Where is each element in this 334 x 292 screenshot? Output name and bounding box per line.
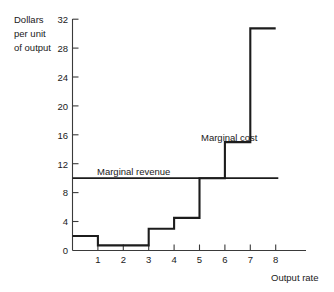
y-axis-label-line2: per unit: [14, 28, 46, 39]
x-axis-label: Output rate: [271, 272, 319, 283]
y-tick-label-20: 20: [57, 101, 68, 112]
chart-container: 32 28 24 20 16 12 8 4 0 1 2 3 4 5 6 7 8 …: [0, 0, 334, 292]
y-tick-label-0: 0: [63, 245, 68, 256]
x-tick-label-6: 6: [222, 254, 227, 265]
y-tick-label-24: 24: [57, 72, 68, 83]
x-tick-label-3: 3: [146, 254, 151, 265]
y-tick-label-4: 4: [63, 216, 68, 227]
y-tick-label-8: 8: [63, 187, 68, 198]
x-tick-label-1: 1: [95, 254, 100, 265]
y-tick-label-32: 32: [57, 14, 68, 25]
marginal-revenue-annotation: Marginal revenue: [97, 166, 170, 177]
y-tick-label-12: 12: [57, 159, 68, 170]
x-tick-label-4: 4: [171, 254, 176, 265]
y-axis-ticks: [73, 19, 79, 221]
y-axis-label-line3: of output: [14, 42, 51, 53]
marginal-cost-revenue-chart: 32 28 24 20 16 12 8 4 0 1 2 3 4 5 6 7 8 …: [0, 0, 334, 292]
marginal-cost-annotation: Marginal cost: [201, 132, 258, 143]
y-axis-label-line1: Dollars: [14, 14, 44, 25]
x-tick-label-8: 8: [273, 254, 278, 265]
x-tick-label-5: 5: [197, 254, 202, 265]
x-tick-label-2: 2: [121, 254, 126, 265]
x-tick-label-7: 7: [248, 254, 253, 265]
y-tick-label-16: 16: [57, 130, 68, 141]
y-tick-label-28: 28: [57, 43, 68, 54]
